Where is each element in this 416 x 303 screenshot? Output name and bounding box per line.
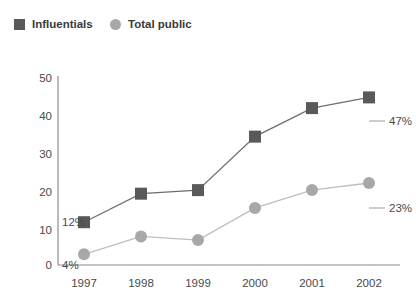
plot-area: 0 10 20 30 40 50 1997 1998 1999 2000 200… (0, 40, 416, 303)
data-point-influentials-2001[interactable] (306, 102, 318, 114)
circle-marker-icon (110, 19, 121, 30)
x-tick-1997: 1997 (71, 277, 97, 289)
label-total-public-end: 23% (389, 202, 412, 214)
data-point-total-public-1997[interactable] (78, 248, 90, 260)
y-tick-30: 30 (39, 148, 52, 160)
y-tick-0: 0 (46, 259, 52, 271)
legend-item-influentials: Influentials (14, 18, 110, 30)
label-total-public-start: 4% (62, 259, 79, 271)
data-point-total-public-2000[interactable] (249, 202, 261, 214)
x-tick-2000: 2000 (242, 277, 268, 289)
data-point-influentials-2000[interactable] (249, 131, 261, 143)
chart-legend: Influentials Total public (14, 14, 192, 34)
series-line-total-public (84, 183, 369, 254)
y-tick-20: 20 (39, 186, 52, 198)
data-point-influentials-1998[interactable] (135, 188, 147, 200)
y-tick-40: 40 (39, 110, 52, 122)
y-tick-50: 50 (39, 72, 52, 84)
x-tick-1999: 1999 (185, 277, 211, 289)
data-point-total-public-1998[interactable] (135, 230, 147, 242)
data-point-total-public-2002[interactable] (363, 177, 375, 189)
y-tick-10: 10 (39, 224, 52, 236)
x-tick-1998: 1998 (128, 277, 154, 289)
x-tick-2002: 2002 (356, 277, 382, 289)
x-tick-2001: 2001 (299, 277, 325, 289)
data-point-influentials-1999[interactable] (192, 184, 204, 196)
series-layer (78, 91, 375, 260)
data-point-influentials-2002[interactable] (363, 91, 375, 103)
series-line-influentials (84, 97, 369, 222)
label-influentials-end: 47% (389, 115, 412, 127)
data-point-total-public-1999[interactable] (192, 234, 204, 246)
legend-label-influentials: Influentials (32, 18, 93, 30)
legend-item-total-public: Total public (110, 18, 192, 30)
square-marker-icon (14, 19, 25, 30)
line-chart: Influentials Total public 0 10 20 30 40 … (0, 0, 416, 303)
label-influentials-start: 12% (62, 216, 85, 228)
data-point-total-public-2001[interactable] (306, 184, 318, 196)
legend-label-total-public: Total public (128, 18, 192, 30)
